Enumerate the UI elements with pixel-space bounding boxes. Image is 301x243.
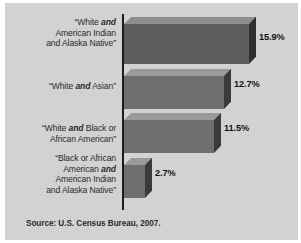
bar-0-side-face	[249, 17, 256, 64]
bar-label-2-line-0: “White and Black or	[11, 123, 116, 134]
label-emphasis: and	[75, 81, 90, 91]
bar-2-side-face	[214, 113, 221, 153]
bar-label-1: “White and Asian”	[11, 81, 116, 92]
source-note: Source: U.S. Census Bureau, 2007.	[26, 219, 160, 228]
bar-1-side-face	[224, 69, 231, 109]
label-text: Black or	[83, 123, 116, 133]
plot-area: “White and American Indian and Alaska Na…	[5, 3, 298, 240]
bar-3-side-face	[145, 158, 152, 198]
label-text: and Alaska Native”	[46, 185, 116, 195]
bar-1[interactable]	[124, 69, 224, 102]
bar-2-top-face	[124, 113, 221, 120]
bar-label-0-line-2: and Alaska Native”	[11, 38, 116, 49]
bar-label-3-line-2: American Indian	[11, 174, 116, 185]
label-text: American Indian	[55, 174, 116, 184]
label-text: “White	[49, 81, 76, 91]
bar-0[interactable]	[124, 17, 249, 57]
label-text: “Black or African	[55, 153, 116, 163]
label-text: and Alaska Native”	[46, 38, 116, 48]
bar-0-top-face	[124, 17, 256, 24]
bar-2[interactable]	[124, 113, 214, 146]
bar-1-front-face	[124, 76, 224, 109]
bar-label-2-line-1: African American”	[11, 134, 116, 145]
bar-label-1-line-0: “White and Asian”	[11, 81, 116, 92]
bar-0-front-face	[124, 24, 249, 64]
bar-label-3-line-1: American and	[11, 164, 116, 175]
bar-2-front-face	[124, 120, 214, 153]
label-text: Asian”	[90, 81, 116, 91]
bar-value-3: 2.7%	[155, 168, 176, 178]
label-text: American	[63, 164, 101, 174]
chart-figure: “White and American Indian and Alaska Na…	[5, 3, 298, 240]
label-emphasis: and	[68, 123, 83, 133]
label-text: “White	[74, 17, 101, 27]
bar-label-3: “Black or African American and American …	[11, 153, 116, 195]
bar-label-3-line-0: “Black or African	[11, 153, 116, 164]
label-emphasis: and	[101, 164, 116, 174]
bar-label-3-line-3: and Alaska Native”	[11, 185, 116, 196]
bar-label-0: “White and American Indian and Alaska Na…	[11, 17, 116, 49]
bar-label-0-line-1: American Indian	[11, 28, 116, 39]
bar-value-2: 11.5%	[224, 123, 249, 133]
label-text: American Indian	[55, 28, 116, 38]
bar-value-0: 15.9%	[259, 32, 285, 42]
label-emphasis: and	[101, 17, 116, 27]
bar-value-1: 12.7%	[234, 79, 260, 89]
bar-label-2: “White and Black or African American”	[11, 123, 116, 144]
bar-3-front-face	[124, 165, 145, 198]
bar-label-0-line-0: “White and	[11, 17, 116, 28]
bar-1-top-face	[124, 69, 231, 76]
bar-3[interactable]	[124, 158, 145, 191]
label-text: “White	[42, 123, 69, 133]
label-text: African American”	[50, 134, 116, 144]
